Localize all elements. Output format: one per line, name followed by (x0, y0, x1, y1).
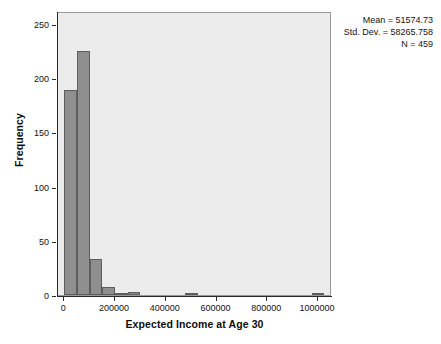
y-axis-tick-label: 250 (5, 20, 49, 30)
x-axis-tick-label: 800000 (251, 303, 281, 313)
y-axis-tick (52, 242, 56, 243)
y-axis-line (57, 12, 58, 297)
histogram-bar (64, 90, 77, 295)
y-axis-tick (52, 296, 56, 297)
y-axis-tick-label: 100 (5, 183, 49, 193)
x-axis-title: Expected Income at Age 30 (57, 318, 332, 330)
y-axis-tick (52, 79, 56, 80)
x-axis-tick-label: 1000000 (300, 303, 335, 313)
x-axis-tick (63, 297, 64, 301)
y-axis-tick (52, 133, 56, 134)
statistics-annotation: Mean = 51574.73 Std. Dev. = 58265.758 N … (333, 14, 433, 50)
histogram-bar (185, 293, 198, 295)
y-axis-title: Frequency (13, 80, 25, 200)
x-axis-tick (317, 297, 318, 301)
y-axis-tick-label: 200 (5, 74, 49, 84)
x-axis-tick (165, 297, 166, 301)
histogram-chart: 02000004000006000008000001000000 0501001… (0, 0, 441, 344)
bars-layer (58, 13, 330, 295)
histogram-bar (128, 292, 141, 295)
histogram-bar (312, 293, 325, 295)
histogram-bar (115, 293, 128, 295)
y-axis-tick-label: 50 (5, 237, 49, 247)
y-axis-tick-label: 150 (5, 128, 49, 138)
y-axis-tick (52, 25, 56, 26)
x-axis-tick (114, 297, 115, 301)
x-axis-tick (266, 297, 267, 301)
histogram-bar (102, 287, 115, 295)
stat-std-dev: Std. Dev. = 58265.758 (333, 26, 433, 38)
x-axis-tick-label: 600000 (201, 303, 231, 313)
plot-area (57, 12, 331, 296)
x-axis-tick-label: 200000 (99, 303, 129, 313)
y-axis-tick-label: 0 (5, 291, 49, 301)
stat-mean: Mean = 51574.73 (333, 14, 433, 26)
x-axis-tick-label: 400000 (150, 303, 180, 313)
y-axis-tick (52, 188, 56, 189)
x-axis-tick-label: 0 (61, 303, 66, 313)
x-axis-line (57, 296, 332, 297)
histogram-bar (77, 51, 90, 295)
histogram-bar (90, 259, 103, 295)
stat-n: N = 459 (333, 38, 433, 50)
x-axis-tick (216, 297, 217, 301)
